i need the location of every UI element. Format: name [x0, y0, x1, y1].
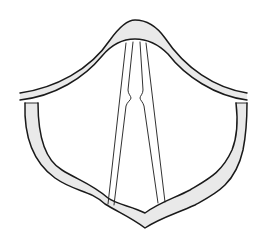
right-vocal-fold-outer: [146, 43, 165, 202]
upper-arch: [20, 20, 247, 100]
illustration-canvas: [0, 0, 263, 233]
right-vocal-fold: [140, 42, 165, 203]
upper-arch-inner: [20, 39, 247, 100]
left-vocal-fold: [108, 42, 133, 205]
lower-rim: [25, 103, 247, 228]
larynx-diagram: [0, 0, 263, 233]
